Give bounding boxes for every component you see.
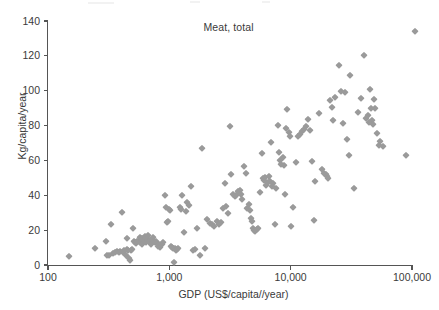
- data-point-marker: [268, 139, 274, 145]
- data-point-marker: [130, 225, 136, 231]
- top-artifact-1: [88, 2, 114, 4]
- data-point-marker: [162, 192, 168, 198]
- data-point-marker: [329, 104, 335, 110]
- y-axis-title: Kg/capita/year: [16, 46, 28, 206]
- plot-area: [48, 21, 412, 265]
- y-tick-mark: [44, 90, 48, 91]
- y-tick-mark: [44, 20, 48, 21]
- data-point-marker: [345, 152, 351, 158]
- data-point-marker: [221, 180, 227, 186]
- data-point-marker: [344, 135, 350, 141]
- data-point-marker: [66, 253, 72, 259]
- y-tick-mark: [44, 195, 48, 196]
- data-point-marker: [108, 221, 114, 227]
- x-tick-label: 1,000: [156, 272, 182, 283]
- x-axis-title-text: GDP (US$/capita//year): [178, 288, 288, 300]
- data-point-marker: [241, 162, 247, 168]
- x-axis-title: GDP (US$/capita//year): [0, 288, 439, 300]
- data-point-marker: [292, 159, 298, 165]
- data-point-marker: [273, 185, 279, 191]
- data-point-marker: [284, 106, 290, 112]
- x-tick-mark: [411, 266, 412, 270]
- data-point-marker: [272, 221, 278, 227]
- top-artifact-2: [190, 1, 200, 3]
- data-point-marker: [257, 189, 263, 195]
- data-point-marker: [194, 225, 200, 231]
- data-point-marker: [290, 204, 296, 210]
- y-tick-label: 0: [10, 260, 40, 271]
- data-point-marker: [92, 245, 98, 251]
- data-point-marker: [403, 152, 409, 158]
- data-point-marker: [315, 109, 321, 115]
- data-point-marker: [373, 129, 379, 135]
- data-point-marker: [124, 235, 130, 241]
- data-point-marker: [258, 150, 264, 156]
- y-tick-mark: [44, 125, 48, 126]
- data-point-marker: [380, 142, 386, 148]
- data-point-marker: [119, 209, 125, 215]
- data-point-marker: [196, 251, 202, 257]
- data-point-marker: [103, 238, 109, 244]
- data-point-marker: [305, 116, 311, 122]
- x-tick-label: 100: [39, 272, 57, 283]
- y-tick-mark: [44, 160, 48, 161]
- data-point-marker: [371, 95, 377, 101]
- y-tick-mark: [44, 55, 48, 56]
- data-point-marker: [227, 122, 233, 128]
- y-tick-label: 20: [10, 225, 40, 236]
- data-point-marker: [370, 121, 376, 127]
- x-tick-mark: [169, 266, 170, 270]
- data-point-marker: [312, 178, 318, 184]
- data-point-marker: [355, 108, 361, 114]
- data-point-marker: [179, 192, 185, 198]
- data-point-marker: [249, 218, 255, 224]
- data-point-marker: [358, 94, 364, 100]
- data-point-marker: [360, 52, 366, 58]
- data-point-marker: [171, 258, 177, 264]
- data-point-marker: [186, 202, 192, 208]
- data-point-marker: [307, 127, 313, 133]
- data-point-marker: [239, 196, 245, 202]
- data-point-marker: [330, 117, 336, 123]
- data-point-marker: [340, 120, 346, 126]
- data-point-marker: [242, 169, 248, 175]
- x-tick-label: 100,000: [393, 272, 431, 283]
- data-point-marker: [223, 202, 229, 208]
- x-tick-label: 10,000: [275, 272, 307, 283]
- data-point-marker: [309, 158, 315, 164]
- data-point-marker: [347, 72, 353, 78]
- y-tick-mark: [44, 230, 48, 231]
- data-point-marker: [282, 190, 288, 196]
- x-tick-mark: [290, 266, 291, 270]
- data-point-marker: [201, 245, 207, 251]
- data-point-marker: [281, 162, 287, 168]
- data-point-marker: [246, 207, 252, 213]
- data-point-marker: [287, 223, 293, 229]
- data-point-marker: [311, 216, 317, 222]
- data-point-marker: [199, 145, 205, 151]
- data-point-marker: [325, 175, 331, 181]
- data-point-marker: [367, 86, 373, 92]
- data-point-marker: [182, 208, 188, 214]
- data-point-marker: [225, 209, 231, 215]
- data-point-marker: [228, 171, 234, 177]
- y-tick-label: 140: [10, 16, 40, 27]
- data-point-marker: [350, 185, 356, 191]
- scatter-chart-figure: Meat, total 020406080100120140 1001,0001…: [0, 0, 439, 310]
- data-point-marker: [286, 133, 292, 139]
- data-point-marker: [167, 207, 173, 213]
- data-point-marker: [372, 105, 378, 111]
- x-tick-mark: [47, 266, 48, 270]
- top-artifact-3: [262, 1, 270, 3]
- data-point-marker: [181, 229, 187, 235]
- data-point-marker: [342, 88, 348, 94]
- data-point-marker: [187, 182, 193, 188]
- data-point-marker: [411, 28, 417, 34]
- data-point-marker: [274, 121, 280, 127]
- data-point-marker: [336, 62, 342, 68]
